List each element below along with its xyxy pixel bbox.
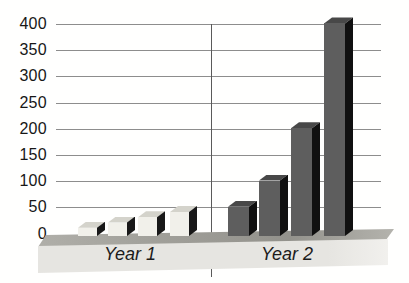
y-tick-label-300: 300: [5, 68, 47, 84]
bar-year2-q1-front-face: [228, 207, 249, 236]
bar-year2-q2-side-face: [280, 175, 288, 236]
y-tick-label-50: 50: [5, 199, 47, 215]
y-tick-label-150: 150: [5, 147, 47, 163]
y-tick-label-350: 350: [5, 42, 47, 58]
bar-chart: 050100150200250300350400 Year 1 Year 2: [0, 0, 409, 283]
bar-year2-q3-side-face: [312, 122, 320, 236]
bar-year2-q2-front-face: [259, 181, 280, 236]
y-tick-label-0: 0: [5, 226, 47, 242]
bar-year2-q1-side-face: [249, 201, 257, 236]
bar-year1-q1-front-face: [78, 228, 97, 236]
y-tick-label-400: 400: [5, 16, 47, 32]
bar-year1-q2-front-face: [108, 223, 127, 237]
bar-year2-q3-front-face: [291, 128, 312, 236]
group-label-year-2: Year 2: [232, 244, 342, 264]
bar-year2-q4-front-face: [324, 23, 345, 236]
bar-year1-q3-front-face: [138, 217, 157, 236]
y-tick-label-100: 100: [5, 173, 47, 189]
y-tick-label-250: 250: [5, 95, 47, 111]
y-tick-label-200: 200: [5, 121, 47, 137]
group-label-year-1: Year 1: [75, 244, 185, 264]
bar-year1-q4-front-face: [170, 212, 189, 236]
bar-year2-q4-side-face: [345, 17, 353, 236]
